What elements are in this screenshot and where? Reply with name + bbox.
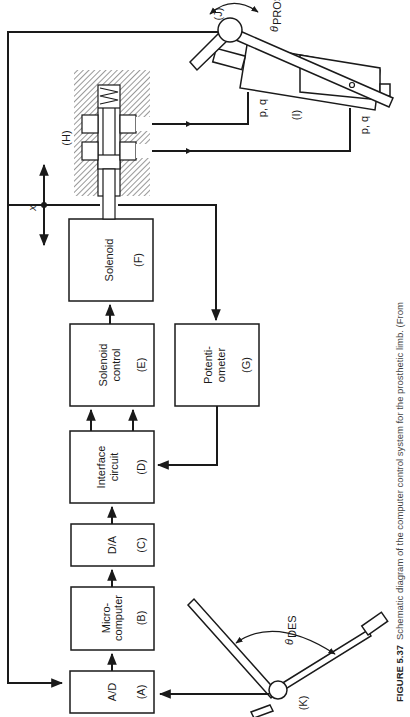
theta-pros-subscript: PROS [271,0,283,25]
block-d-interface-circuit: Interface circuit (D) [70,431,154,503]
servo-valve-h: (H) [60,70,150,219]
figure-caption: FIGURE 5.37 Schematic diagram of the com… [394,302,405,702]
theta-des-symbol: θ [283,639,295,645]
x-point-dot [41,202,47,208]
joint-k-label: (K) [297,696,309,711]
block-g-label-2: ometer [215,348,227,383]
hydraulic-actuator-i: (I) [213,45,390,120]
block-e-label-1: Solenoid [97,344,109,387]
block-f-tag: (F) [132,253,144,267]
valve-h-label: (H) [60,130,72,145]
theta-des-subscript: DES [286,615,298,638]
block-a-label: A/D [106,683,118,701]
pq-label-bottom: p, q [358,116,370,134]
block-d-label-1: Interface [95,446,107,489]
block-f-solenoid: Solenoid (F) [69,219,153,301]
block-d-label-2: circuit [108,453,120,482]
block-e-solenoid-control: Solenoid control (E) [70,324,154,406]
block-e-label-2: control [110,348,122,381]
joint-j-circle [218,18,242,42]
caption-label: FIGURE 5.37 [394,645,405,702]
desired-joint-k: (K) θ DES [160,599,388,717]
diagram-canvas: A/D (A) Micro- computer (B) D/A (C) Inte… [0,0,410,717]
block-c-da: D/A (C) [71,524,154,566]
block-g-potentiometer: Potenti- ometer (G) [175,324,259,406]
joint-k-circle [269,681,287,699]
block-b-microcomputer: Micro- computer (B) [71,587,154,650]
block-g-tag: (G) [240,357,252,373]
block-d-tag: (D) [135,459,147,474]
hydraulic-line-1 [152,92,248,124]
block-a-ad: A/D (A) [70,671,154,713]
pq-label-top: p, q [256,99,268,117]
joint-j-label: (J) [212,8,224,21]
block-c-label: D/A [106,535,118,554]
block-g-label-1: Potenti- [202,346,214,384]
theta-pros-symbol: θ [268,26,280,32]
arrow-g-to-d [158,406,217,465]
valve-stem [103,169,115,219]
hydraulic-line-2 [152,108,350,151]
block-c-tag: (C) [135,537,147,552]
actuator-i-label: (I) [290,110,302,120]
block-b-label-2: computer [112,595,124,641]
block-e-tag: (E) [135,358,147,373]
x-label: x [26,205,38,212]
block-f-label: Solenoid [103,239,115,282]
block-b-label-1: Micro- [100,602,112,633]
caption-text: Schematic diagram of the computer contro… [394,302,405,640]
block-a-tag: (A) [135,685,147,700]
block-b-tag: (B) [135,611,147,626]
